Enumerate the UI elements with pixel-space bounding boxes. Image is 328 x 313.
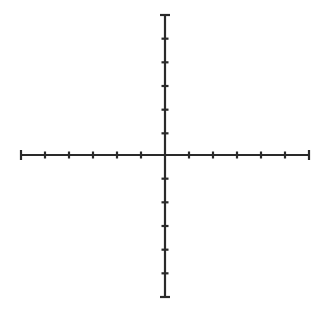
figure-canvas bbox=[0, 0, 328, 313]
coordinate-axes-figure bbox=[0, 0, 328, 313]
